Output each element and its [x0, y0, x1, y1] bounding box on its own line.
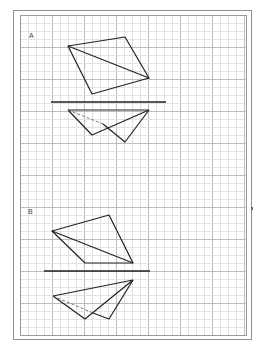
figure-label-b: B: [28, 208, 33, 215]
figure-label-a: A: [29, 32, 34, 39]
graph-paper-sheet: [0, 0, 263, 353]
elevation-edge: [103, 110, 149, 142]
grid: [20, 15, 247, 336]
elevation-edge: [93, 280, 133, 319]
elevation-hidden-edge: [68, 110, 103, 124]
